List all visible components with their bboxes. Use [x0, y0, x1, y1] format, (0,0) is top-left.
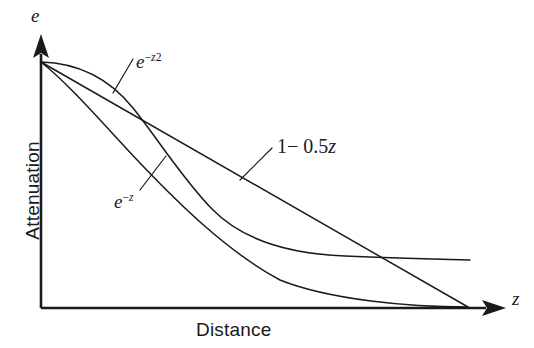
curve-linear [41, 62, 468, 307]
curve-label-exp: e−z [114, 192, 134, 211]
y-axis-title: Attenuation [23, 121, 42, 261]
curve-label-linear-sign: − [287, 135, 298, 157]
curve-label-gauss-exp-power: 2 [156, 51, 162, 64]
x-axis-variable-label: z [512, 289, 519, 308]
leader-line-gauss [113, 59, 133, 93]
figure-root: e z Distance Attenuation e−z2 e−z 1− 0.5… [0, 0, 534, 348]
x-axis-title: Distance [196, 320, 272, 339]
curve-label-linear-constant: 1 [277, 135, 287, 157]
curve-gauss [41, 62, 470, 260]
curve-label-linear: 1− 0.5z [277, 136, 336, 156]
plot-canvas [0, 0, 534, 348]
curve-label-exp-var: z [129, 191, 134, 204]
leader-line-linear [240, 148, 272, 180]
y-axis-variable-label: e [31, 6, 39, 25]
curve-label-gauss: e−z2 [136, 52, 162, 71]
curve-label-linear-variable: z [328, 135, 336, 157]
curve-label-linear-coefficient: 0.5 [303, 135, 328, 157]
